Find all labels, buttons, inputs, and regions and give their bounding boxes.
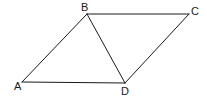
vertex-label-d: D [121,85,129,97]
diagram-svg: A B C D [0,0,207,100]
vertex-label-a: A [14,80,22,92]
geometry-diagram: A B C D [0,0,207,100]
vertex-label-b: B [81,1,88,13]
segment-da [22,82,125,83]
segment-ab [22,14,87,82]
segment-bd-diagonal [87,14,125,83]
segment-cd [125,14,189,83]
vertex-label-c: C [191,5,199,17]
